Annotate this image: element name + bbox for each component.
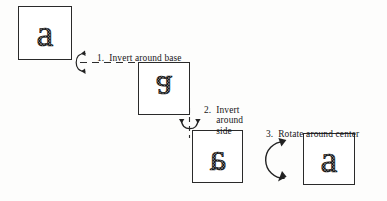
step-1-text: Invert around base [109,53,181,63]
step-2-line-3: side [216,126,243,137]
letter-box-start: a [18,6,72,60]
step-3-label: 3. Rotate around center [256,118,359,150]
svg-text:a: a [37,12,54,54]
step-1-label: 1. Invert around base [87,42,182,74]
flip-vertical-arrow-icon [76,51,85,74]
step-2-line-1: Invert [216,105,243,116]
step-2-text-lines: Invertaroundside [216,105,243,137]
svg-text:a: a [156,68,173,110]
step-3-text: Rotate around center [278,129,359,139]
glyph-a-upright: a [19,7,71,59]
step-2-label: 2. Invertaroundside [194,94,243,147]
figure-canvas: a a [0,0,387,201]
step-2-line-2: around [216,115,243,126]
